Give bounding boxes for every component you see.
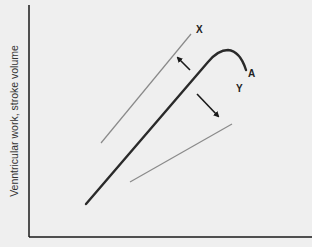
- line-x: [101, 34, 191, 143]
- diagram-figure: Venntricular work, stroke volume X A Y: [0, 0, 312, 247]
- label-y: Y: [236, 83, 243, 94]
- plot-area: X A Y: [0, 0, 312, 247]
- arrow-toward-x-icon: [178, 58, 190, 70]
- label-a: A: [248, 68, 255, 79]
- line-y: [130, 124, 232, 182]
- axes: [29, 5, 312, 237]
- curve-a: [86, 50, 246, 204]
- label-x: X: [196, 24, 203, 35]
- arrow-toward-y-icon: [197, 94, 218, 116]
